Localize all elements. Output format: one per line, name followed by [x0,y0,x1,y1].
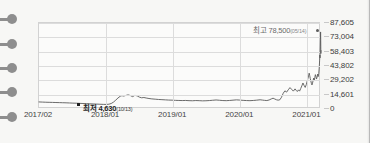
gridline-vertical [240,23,241,107]
high-annotation-date: (05/14) [290,28,306,34]
y-axis-tick-label: 87,605 [330,18,354,27]
gridline-vertical [173,23,174,107]
pin-dot-icon [7,87,17,97]
y-axis-tick-label: 29,202 [330,75,354,84]
y-axis-tick [324,22,329,23]
x-axis-tick-label: 2021/01 [292,110,320,119]
page-right-edge [369,0,378,143]
low-annotation: 최저 4,630(10/13) [83,102,132,113]
y-axis-tick-label: 43,802 [330,61,354,70]
gridline-horizontal [39,80,320,81]
y-axis-tick-label: 73,004 [330,32,354,41]
high-marker-icon [316,29,319,32]
y-axis-tick [324,94,329,95]
y-axis-tick [324,51,329,52]
y-axis-tick [324,79,329,80]
pin-dot-icon [7,63,17,73]
gridline-horizontal [39,37,320,38]
gridline-vertical [307,23,308,107]
high-annotation-label: 최고 78,500 [253,26,290,35]
y-axis-tick [324,65,329,66]
high-annotation: 최고 78,500(05/14) [253,24,306,35]
gridline-vertical [106,23,107,107]
x-axis-tick-label: 2017/02 [24,110,52,119]
gridline-horizontal [39,52,320,53]
x-axis-tick-label: 2020/01 [225,110,253,119]
y-axis-tick-label: 58,403 [330,46,354,55]
y-axis-tick-label: 14,601 [330,89,354,98]
x-axis-tick-label: 2019/01 [158,110,186,119]
chart-screenshot: 014,60129,20243,80258,40373,00487,605 20… [0,0,378,143]
pin-dot-icon [7,39,17,49]
pin-dot-icon [7,14,17,24]
gridline-horizontal [39,95,320,96]
low-annotation-date: (10/13) [116,106,132,112]
x-axis-labels: 2017/022018/012019/012020/012021/01 [0,110,378,124]
low-annotation-label: 최저 4,630 [83,104,116,113]
y-axis-tick [324,36,329,37]
low-marker-icon [77,103,80,106]
gridline-horizontal [39,66,320,67]
y-axis-tick [324,108,329,109]
